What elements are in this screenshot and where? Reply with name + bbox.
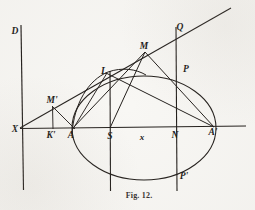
point-label-d: D: [12, 27, 19, 37]
chord-m-a-prime: [145, 52, 214, 127]
ordinate-line-n: [176, 27, 177, 191]
figure-12-container: D X M' K' A L S M x N Q P P' A' Fig. 12.: [0, 0, 255, 210]
chord-l-a-prime: [106, 73, 214, 127]
chord-l-a: [73, 73, 107, 129]
geometry-drawing: [0, 0, 255, 210]
point-label-m-prime: M': [46, 96, 57, 106]
chord-m-prime-a: [52, 106, 75, 129]
point-label-m: M: [140, 42, 148, 52]
ordinate-line-k-prime: [53, 106, 54, 129]
oblique-tangent-line: [20, 8, 231, 128]
point-label-l: L: [101, 67, 107, 77]
directrix-line: [21, 25, 24, 190]
figure-caption: Fig. 12.: [126, 191, 153, 200]
point-label-p: P: [183, 65, 189, 75]
point-label-q: Q: [177, 23, 184, 33]
point-label-a: A: [68, 131, 74, 141]
point-label-k-prime: K': [47, 131, 56, 141]
point-label-x-small: x: [140, 133, 145, 142]
point-label-x-capital: X: [12, 125, 18, 135]
chord-a-m: [72, 52, 145, 129]
point-label-n: N: [172, 131, 179, 141]
point-label-s: S: [107, 132, 112, 142]
point-label-a-prime: A': [209, 128, 218, 138]
auxiliary-arc-a-l: [72, 69, 146, 134]
point-label-p-prime: P': [180, 172, 188, 182]
